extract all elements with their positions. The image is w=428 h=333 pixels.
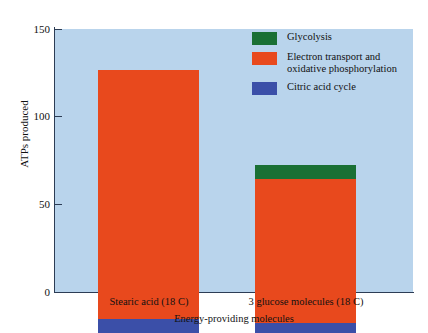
- legend-swatch-electron-transport: [252, 52, 277, 65]
- y-tick-label-50: 50: [39, 199, 50, 210]
- legend-label-citric-acid-cycle: Citric acid cycle: [287, 81, 356, 93]
- y-tick-label-100: 100: [34, 111, 51, 122]
- x-axis-title: Energy-providing molecules: [55, 313, 413, 324]
- y-tick-0: [55, 292, 62, 293]
- legend-item-glycolysis: Glycolysis: [252, 31, 402, 45]
- chart-legend: Glycolysis Electron transport and oxidat…: [252, 31, 402, 101]
- y-tick-150: [55, 29, 62, 30]
- legend-swatch-glycolysis: [252, 32, 277, 45]
- legend-swatch-citric-acid-cycle: [252, 82, 277, 95]
- legend-label-electron-transport: Electron transport and oxidative phospho…: [287, 51, 402, 75]
- x-axis-label-glucose: 3 glucose molecules (18 C): [230, 296, 382, 307]
- bar-segment-citric-acid-cycle: [255, 323, 356, 333]
- y-tick-label-150: 150: [34, 24, 51, 35]
- legend-label-glycolysis: Glycolysis: [287, 31, 332, 43]
- y-tick-100: [55, 116, 62, 117]
- bar-glucose-molecules: [255, 165, 356, 333]
- y-tick-label-0: 0: [45, 287, 51, 298]
- y-tick-50: [55, 204, 62, 205]
- x-axis-label-stearic-acid: Stearic acid (18 C): [78, 296, 220, 307]
- y-axis-title: ATPs produced: [18, 74, 30, 194]
- bar-segment-glycolysis: [255, 165, 356, 179]
- bar-segment-electron-transport: [98, 70, 199, 319]
- chart-figure: 150 100 50 0 ATPs produced Stearic acid …: [0, 0, 428, 333]
- bar-stearic-acid: [98, 70, 199, 333]
- legend-item-electron-transport: Electron transport and oxidative phospho…: [252, 51, 402, 75]
- y-axis-line: [54, 27, 55, 293]
- legend-item-citric-acid-cycle: Citric acid cycle: [252, 81, 402, 95]
